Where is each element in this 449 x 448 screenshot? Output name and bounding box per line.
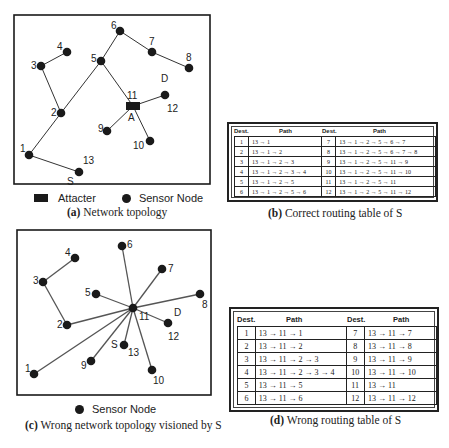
node-label-9: 9 <box>81 360 87 371</box>
path-cell: 13 → 11 → 2 → 3 → 4 <box>255 366 346 379</box>
node-label-6: 6 <box>127 239 133 250</box>
dest-cell: 10 <box>346 366 364 379</box>
header-dest-left: Dest. <box>237 315 255 324</box>
path-cell: 13 → 11 → 12 <box>364 392 436 405</box>
dest-cell: 6 <box>238 392 256 405</box>
table-row: 313 → 11 → 2 → 3913 → 11 → 9 <box>238 353 437 366</box>
sensor-legend-label: Sensor Node <box>92 403 156 415</box>
sensor-node-7 <box>158 265 167 274</box>
table-row: 213 → 11 → 2813 → 11 → 8 <box>238 340 437 353</box>
dest-cell: 11 <box>346 379 364 392</box>
sensor-node-3 <box>39 278 48 287</box>
edge-5-11 <box>96 294 133 308</box>
dest-cell: 3 <box>238 353 256 366</box>
dest-cell: 5 <box>238 379 256 392</box>
node-label-11: 11 <box>139 311 150 322</box>
caption-d-text: Wrong routing table of S <box>287 414 402 426</box>
node-label-8: 8 <box>202 299 208 310</box>
edge-8-11 <box>133 294 200 308</box>
header-dest-right: Dest. <box>347 315 365 324</box>
sensor-node-4 <box>71 254 80 263</box>
sensor-node-5 <box>92 290 101 299</box>
node-label-10: 10 <box>153 375 165 386</box>
legend-c: Sensor Node <box>75 403 156 415</box>
edge-3-4 <box>43 258 75 282</box>
node-label-3: 3 <box>33 275 39 286</box>
path-cell: 13 → 11 → 9 <box>364 353 436 366</box>
edge-2-11 <box>67 308 133 325</box>
table-row: 613 → 11 → 61213 → 11 → 12 <box>238 392 437 405</box>
table-row: 113 → 11 → 1713 → 11 → 7 <box>238 327 437 340</box>
path-cell: 13 → 11 → 2 <box>255 340 346 353</box>
sensor-node-10 <box>148 366 157 375</box>
caption-c: (c) Wrong network topology visioned by S <box>25 419 222 431</box>
wrong-routing-table: Dest. Path Dest. Path 113 → 11 → 1713 → … <box>229 307 439 412</box>
dest-cell: 9 <box>346 353 364 366</box>
dest-cell: 1 <box>238 327 256 340</box>
sensor-node-legend-icon <box>75 405 84 414</box>
node-label-4: 4 <box>65 247 71 258</box>
path-cell: 13 → 11 → 2 → 3 <box>255 353 346 366</box>
path-cell: 13 → 11 → 7 <box>364 327 436 340</box>
node-label-7: 7 <box>168 263 174 274</box>
sensor-node-12 <box>164 319 173 328</box>
edge-3-2 <box>43 282 67 325</box>
header-path-left: Path <box>286 315 302 324</box>
dest-cell: 8 <box>346 340 364 353</box>
path-cell: 13 → 11 → 5 <box>255 379 346 392</box>
table-row: 413 → 11 → 2 → 3 → 41013 → 11 → 10 <box>238 366 437 379</box>
sensor-node-8 <box>196 290 205 299</box>
path-cell: 13 → 11 → 10 <box>364 366 436 379</box>
caption-d: (d) Wrong routing table of S <box>270 414 401 426</box>
role-label-S: S <box>111 339 118 350</box>
edge-7-11 <box>133 269 162 308</box>
sensor-node-9 <box>87 357 96 366</box>
sensor-node-2 <box>63 321 72 330</box>
dest-cell: 4 <box>238 366 256 379</box>
header-path-right: Path <box>393 315 409 324</box>
table-row: 513 → 11 → 51113 → 11 <box>238 379 437 392</box>
node-label-5: 5 <box>85 287 91 298</box>
sensor-node-6 <box>118 242 127 251</box>
dest-cell: 7 <box>346 327 364 340</box>
dest-cell: 12 <box>346 392 364 405</box>
path-cell: 13 → 11 → 8 <box>364 340 436 353</box>
role-label-D: D <box>174 307 181 318</box>
caption-d-label: (d) <box>270 414 284 426</box>
caption-c-label: (c) <box>25 419 38 431</box>
dest-cell: 2 <box>238 340 256 353</box>
edge-6-11 <box>122 246 133 308</box>
node-label-12: 12 <box>168 331 180 342</box>
sensor-node-13 <box>120 341 129 350</box>
node-label-13: 13 <box>128 347 140 358</box>
caption-c-text: Wrong network topology visioned by S <box>40 419 221 431</box>
path-cell: 13 → 11 → 6 <box>255 392 346 405</box>
routing-table-grid: 113 → 11 → 1713 → 11 → 7213 → 11 → 2813 … <box>237 326 437 405</box>
sensor-node-11 <box>129 304 138 313</box>
path-cell: 13 → 11 → 1 <box>255 327 346 340</box>
node-label-1: 1 <box>25 363 31 374</box>
path-cell: 13 → 11 <box>364 379 436 392</box>
node-label-2: 2 <box>57 319 63 330</box>
sensor-node-1 <box>30 370 39 379</box>
